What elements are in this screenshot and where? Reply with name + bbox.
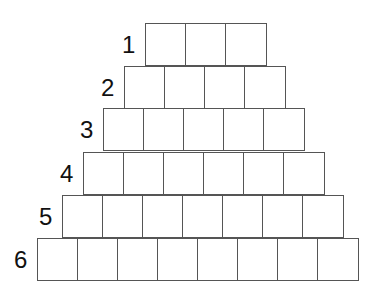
empty-box: [223, 108, 265, 151]
empty-box: [62, 195, 104, 238]
empty-box: [117, 238, 159, 281]
empty-box: [163, 152, 205, 195]
empty-box: [145, 23, 187, 66]
empty-box: [197, 238, 239, 281]
empty-box: [164, 66, 206, 109]
row-label-4: 4: [60, 162, 73, 186]
box-row-5: [62, 195, 344, 238]
row-label-2: 2: [101, 76, 114, 100]
empty-box: [77, 238, 119, 281]
row-label-5: 5: [39, 205, 52, 229]
empty-box: [183, 108, 225, 151]
empty-box: [317, 238, 359, 281]
empty-box: [302, 195, 344, 238]
empty-box: [237, 238, 279, 281]
empty-box: [243, 152, 285, 195]
empty-box: [222, 195, 264, 238]
row-label-1: 1: [122, 33, 135, 57]
empty-box: [83, 152, 125, 195]
empty-box: [262, 195, 304, 238]
empty-box: [244, 66, 286, 109]
empty-box: [263, 108, 305, 151]
empty-box: [142, 195, 184, 238]
row-label-3: 3: [80, 118, 93, 142]
empty-box: [283, 152, 325, 195]
box-row-1: [145, 23, 267, 66]
empty-box: [102, 195, 144, 238]
empty-box: [185, 23, 227, 66]
empty-box: [225, 23, 267, 66]
empty-box: [123, 152, 165, 195]
box-row-3: [103, 108, 305, 151]
empty-box: [182, 195, 224, 238]
box-row-2: [124, 66, 286, 109]
empty-box: [143, 108, 185, 151]
empty-box: [103, 108, 145, 151]
box-row-6: [37, 238, 359, 281]
box-row-4: [83, 152, 325, 195]
row-label-6: 6: [14, 248, 27, 272]
empty-box: [37, 238, 79, 281]
empty-box: [157, 238, 199, 281]
empty-box: [204, 66, 246, 109]
empty-box: [124, 66, 166, 109]
empty-box: [203, 152, 245, 195]
empty-box: [277, 238, 319, 281]
